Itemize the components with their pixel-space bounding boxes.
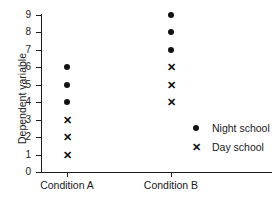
y-axis-tick-label: 7: [11, 45, 31, 55]
data-point-cross: ✕: [60, 148, 74, 162]
x-axis-tick: [67, 172, 68, 177]
y-axis-tick: [36, 102, 41, 103]
legend-item: Night school: [189, 120, 277, 139]
y-axis-tick: [36, 137, 41, 138]
data-point-dot: [164, 8, 178, 22]
data-point-cross: ✕: [60, 113, 74, 127]
x-axis-tick: [171, 172, 172, 177]
y-axis-tick-label: 8: [11, 27, 31, 37]
y-axis-tick: [36, 32, 41, 33]
data-point-dot: [60, 60, 74, 74]
y-axis-tick-label: 2: [11, 132, 31, 142]
legend-label: Day school: [212, 139, 264, 155]
y-axis-tick: [36, 15, 41, 16]
x-axis-tick-label: Condition B: [111, 179, 231, 191]
scatter-plot-figure: Dependent variable 0123456789 Condition …: [0, 0, 278, 199]
data-point-dot: [60, 95, 74, 109]
y-axis-tick: [36, 172, 41, 173]
y-axis-line: [41, 14, 42, 173]
x-axis-line: [41, 172, 272, 173]
data-point-dot: [164, 43, 178, 57]
legend-marker-cross-icon: ✕: [189, 139, 203, 155]
y-axis-tick-label: 4: [11, 97, 31, 107]
data-point-dot: [60, 78, 74, 92]
legend: Night school✕Day school: [189, 120, 277, 158]
y-axis-tick: [36, 155, 41, 156]
data-point-dot: [164, 25, 178, 39]
y-axis-tick-label: 9: [11, 10, 31, 20]
y-axis-tick-label: 6: [11, 62, 31, 72]
y-axis-tick-label: 5: [11, 80, 31, 90]
legend-marker-dot-icon: [189, 120, 203, 136]
data-point-cross: ✕: [164, 60, 178, 74]
legend-item: ✕Day school: [189, 139, 277, 158]
data-point-cross: ✕: [164, 78, 178, 92]
x-axis-tick-label: Condition A: [7, 179, 127, 191]
y-axis-tick-label: 0: [11, 167, 31, 177]
y-axis-tick-label: 3: [11, 115, 31, 125]
data-point-cross: ✕: [164, 95, 178, 109]
y-axis-tick: [36, 50, 41, 51]
y-axis-tick: [36, 120, 41, 121]
y-axis-tick: [36, 85, 41, 86]
data-point-cross: ✕: [60, 130, 74, 144]
y-axis-tick: [36, 67, 41, 68]
y-axis-tick-label: 1: [11, 150, 31, 160]
legend-label: Night school: [212, 120, 270, 136]
